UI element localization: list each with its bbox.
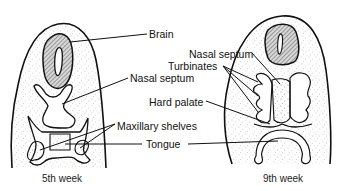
label-nasal-septum-right: Nasal septum (189, 48, 253, 60)
label-tongue: Tongue (146, 138, 180, 150)
caption-5th-week: 5th week (42, 173, 82, 185)
label-nasal-septum-left: Nasal septum (130, 72, 194, 84)
label-maxillary-shelves: Maxillary shelves (117, 120, 197, 132)
label-turbinates: Turbinates (168, 60, 217, 72)
caption-9th-week: 9th week (263, 173, 303, 185)
nasal-septum-9th-week (272, 79, 290, 123)
label-hard-palate: Hard palate (149, 96, 203, 108)
brain-ventricle-9th-week (278, 34, 283, 54)
label-brain: Brain (149, 28, 174, 40)
tongue-5th-week (50, 134, 70, 150)
nasal-cavity-right-9th-week (290, 73, 310, 123)
panel-5th-week (11, 23, 106, 168)
brain-ventricle-5th-week (55, 48, 63, 76)
